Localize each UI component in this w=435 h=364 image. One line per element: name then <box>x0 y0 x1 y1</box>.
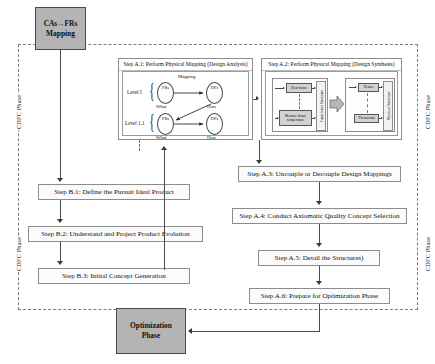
terminator-bottom-line2: Phase <box>130 331 172 341</box>
arrow-a3-to-a4 <box>316 201 322 205</box>
step-box-a5-label: Step A.5: Detail the Structures) <box>275 254 364 262</box>
a2-left-arrow-1 <box>283 87 285 89</box>
connector-a6-down <box>319 304 320 331</box>
step-box-a4[interactable]: Step A.4: Conduct Axiomatic Quality Conc… <box>232 208 407 224</box>
terminator-cas-frs-mapping[interactable]: CAs→FRs Mapping <box>35 7 86 50</box>
step-box-a3[interactable]: Step A.3: Uncouple or Decouple Design Ma… <box>238 166 401 182</box>
step-box-b2[interactable]: Step B.2: Understand and Project Product… <box>28 226 203 242</box>
mini-box-heater[interactable]: Heater <box>358 83 379 92</box>
arrow-a5-to-a6 <box>316 281 322 285</box>
step-box-b1[interactable]: Step B.1: Define the Pursuit Ideal Produ… <box>38 184 190 200</box>
node-dps-level1-label: DPs <box>207 85 222 90</box>
panel-a1-brace-2: { <box>149 111 155 131</box>
panel-step-a2[interactable]: Step A.2: Perform Physical Mapping (Desi… <box>261 58 402 140</box>
arrow-b2-to-b3 <box>57 261 63 265</box>
node-frs-level1-label: FRs <box>158 85 173 90</box>
a2-right-dash <box>367 93 368 113</box>
connector-b3-up-foot <box>164 269 165 270</box>
panel-a1-how-row1: How <box>207 104 216 109</box>
step-box-b3-label: Step B.3: Initial Concept Generation <box>62 272 166 280</box>
connector-b3-up <box>164 150 165 270</box>
phase-label-left-top: CDFC Phase <box>15 94 22 130</box>
diagram-canvas: CDFC Phase CDFC Phase CDFC Phase CDFC Ph… <box>0 0 435 364</box>
arrow-to-optimization <box>188 328 192 334</box>
panel-a1-level-1-label: Level I <box>127 89 142 95</box>
panel-a1-body: Level I { Level 1.1 { FRs DPs FRs DPs Ma… <box>122 71 249 136</box>
arrow-a2-to-a3 <box>256 160 262 164</box>
phase-label-right-top: CDFC Phase <box>424 94 431 130</box>
terminator-optimization-phase[interactable]: Optimization Phase <box>116 308 186 354</box>
a2-left-arrow-4 <box>314 117 316 119</box>
connector-a2-to-a3 <box>259 140 260 162</box>
terminator-bottom-line1: Optimization <box>130 321 172 331</box>
node-frs-level11[interactable]: FRs <box>157 113 174 135</box>
step-box-a5[interactable]: Step A.5: Detail the Structures) <box>258 250 380 266</box>
mini-box-thermostat[interactable]: Thermostat <box>354 114 379 123</box>
terminator-top-line1: CAs→FRs <box>44 19 78 29</box>
phase-label-right-bottom: CDFC Phase <box>424 236 431 272</box>
mini-box-heat-house[interactable]: Heat house <box>286 83 312 93</box>
connector-a6-left <box>192 331 320 332</box>
step-box-b3[interactable]: Step B.3: Initial Concept Generation <box>38 268 190 284</box>
connector-cas-drop <box>60 50 61 180</box>
a2-left-arrow-2 <box>314 87 316 89</box>
step-box-a6-label: Step A.6: Prepare for Optimization Phase <box>261 292 378 300</box>
strip-physical-structure-label: Physical Structure <box>386 91 391 120</box>
strip-functional-structure: Functional Structure <box>316 81 326 131</box>
step-box-b2-label: Step B.2: Understand and Project Product… <box>41 230 189 238</box>
node-dps-level1[interactable]: DPs <box>206 82 223 104</box>
arrow-cas-to-b1 <box>57 178 63 182</box>
step-box-a4-label: Step A.4: Conduct Axiomatic Quality Conc… <box>239 212 399 220</box>
node-frs-level11-label: FRs <box>158 116 173 121</box>
strip-physical-structure: Physical Structure <box>383 81 393 131</box>
panel-a1-title: Step A.1: Perform Physical Mapping (Desi… <box>119 59 252 71</box>
panel-step-a1[interactable]: Step A.1: Perform Physical Mapping (Desi… <box>118 58 253 140</box>
arrow-a4-to-a5 <box>316 243 322 247</box>
arrow-b1-to-b2 <box>57 219 63 223</box>
step-box-a3-label: Step A.3: Uncouple or Decouple Design Ma… <box>247 170 391 178</box>
node-frs-level1[interactable]: FRs <box>157 82 174 104</box>
node-dps-level11[interactable]: DPs <box>206 113 223 135</box>
a2-left-arrow-3 <box>277 117 279 119</box>
arrow-b-to-a1 <box>161 146 167 150</box>
panel-a2-body: Heat house Measure house temperature Fun… <box>265 71 398 136</box>
a2-right-arrow-2 <box>381 86 383 88</box>
dash-a1-bottom <box>139 140 140 151</box>
panel-a1-what-row1: What <box>156 104 166 109</box>
a2-right-arrow-3 <box>381 117 383 119</box>
panel-a1-mapping-label: Mapping <box>178 74 195 79</box>
node-dps-level11-label: DPs <box>207 116 222 121</box>
strip-functional-structure-label: Functional Structure <box>319 90 324 123</box>
step-box-a6[interactable]: Step A.6: Prepare for Optimization Phase <box>249 288 390 304</box>
phase-label-left-bottom: CDFC Phase <box>15 236 22 272</box>
panel-a2-functional-group: Heat house Measure house temperature Fun… <box>272 78 328 132</box>
panel-a1-level-2-label: Level 1.1 <box>125 120 145 126</box>
panel-a2-title: Step A.2: Perform Physical Mapping (Desi… <box>262 59 401 71</box>
panel-a1-what-row2: What <box>156 135 166 140</box>
arrow-into-a2 <box>256 96 259 100</box>
panel-a2-physical-group: Heater Thermostat Physical Structure <box>345 78 395 132</box>
step-box-b1-label: Step B.1: Define the Pursuit Ideal Produ… <box>54 188 174 196</box>
mini-box-measure-temp[interactable]: Measure house temperature <box>279 110 312 126</box>
panel-a1-how-row2: How <box>207 135 216 140</box>
panel-a1-arrows <box>123 72 252 141</box>
terminator-top-line2: Mapping <box>44 29 78 39</box>
a2-left-dash <box>299 94 300 109</box>
a2-right-arrow-1 <box>355 86 357 88</box>
panel-a1-brace-1: { <box>149 80 155 100</box>
